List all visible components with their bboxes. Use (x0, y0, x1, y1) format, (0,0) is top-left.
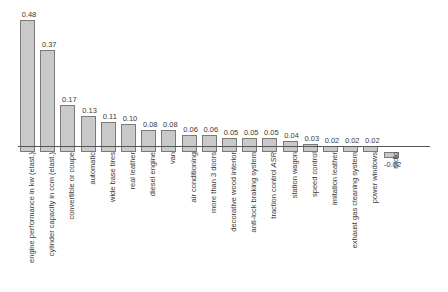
bar-slot: 0.04 (281, 6, 301, 152)
plot-area: 0.480.370.170.130.110.100.080.080.060.06… (18, 6, 430, 152)
bar-slot: 0.06 (180, 6, 200, 152)
category-label-slot: automatic (79, 150, 99, 290)
category-label-slot: station wagon (281, 150, 301, 290)
category-label: air conditioning (190, 152, 198, 202)
bar[interactable] (121, 124, 136, 152)
category-label: imitation leather (331, 152, 339, 205)
category-label-slot: radio (382, 150, 402, 290)
bar[interactable] (20, 20, 35, 152)
category-label: more than 3 doors (210, 152, 218, 213)
category-label-slot: imitation leather (321, 150, 341, 290)
bar-slot: 0.08 (139, 6, 159, 152)
x-axis-baseline (18, 146, 430, 147)
bar-slot: 0.11 (99, 6, 119, 152)
bar[interactable] (161, 130, 176, 152)
category-label-slot: cylinder capacity in ccm (elast.) (38, 150, 58, 290)
bar-slot: 0.08 (159, 6, 179, 152)
category-label: decorative wood interior (230, 152, 238, 232)
bar-slot: 0.05 (240, 6, 260, 152)
bar-slot: 0.02 (341, 6, 361, 152)
category-label: engine performance in kw (elast.) (28, 152, 36, 263)
category-labels-area: engine performance in kw (elast.)cylinde… (18, 150, 430, 290)
bar-slot: 0.05 (220, 6, 240, 152)
bar-slot: -0.02 (382, 6, 402, 152)
category-label: real leather (129, 152, 137, 190)
category-label-slot: anti-lock braking system (240, 150, 260, 290)
category-label-slot: wide base tires (99, 150, 119, 290)
category-label: convertible or coupe (68, 152, 76, 220)
category-label-slot: van (159, 150, 179, 290)
category-label-slot: decorative wood interior (220, 150, 240, 290)
bar-slot: 0.37 (38, 6, 58, 152)
bar-slot: 0.06 (200, 6, 220, 152)
category-label: anti-lock braking system (250, 152, 258, 232)
category-label-slot: traction control ASR (260, 150, 280, 290)
bar-slot: 0.02 (321, 6, 341, 152)
bar-slot: 0.02 (361, 6, 381, 152)
category-label-slot: engine performance in kw (elast.) (18, 150, 38, 290)
category-label-slot: more than 3 doors (200, 150, 220, 290)
category-label: speed control (311, 152, 319, 197)
category-label: traction control ASR (270, 152, 278, 219)
bar-slot: 0.48 (18, 6, 38, 152)
category-label: diesel engine (149, 152, 157, 196)
category-label-slot: diesel engine (139, 150, 159, 290)
category-label-slot: air conditioning (180, 150, 200, 290)
bar-slot: 0.17 (58, 6, 78, 152)
bar-slot: 0.10 (119, 6, 139, 152)
category-label: station wagon (291, 152, 299, 198)
bar-slot: 0.05 (260, 6, 280, 152)
bar-chart: 0.480.370.170.130.110.100.080.080.060.06… (0, 0, 448, 292)
category-label: cylinder capacity in ccm (elast.) (48, 152, 56, 256)
category-label: radio (392, 152, 400, 169)
category-label: automatic (89, 152, 97, 185)
category-label: power windows (371, 152, 379, 203)
category-label: wide base tires (109, 152, 117, 202)
bar[interactable] (141, 130, 156, 152)
bar-slot: 0.03 (301, 6, 321, 152)
bar[interactable] (101, 122, 116, 152)
category-label-slot: speed control (301, 150, 321, 290)
category-label: exhaust gas cleaning system (351, 152, 359, 248)
category-label-slot: real leather (119, 150, 139, 290)
bar[interactable] (40, 50, 55, 152)
category-label-slot: convertible or coupe (58, 150, 78, 290)
bar-slot: 0.13 (79, 6, 99, 152)
category-label-slot: exhaust gas cleaning system (341, 150, 361, 290)
category-label-slot: power windows (361, 150, 381, 290)
category-label: van (169, 152, 177, 164)
bar[interactable] (60, 105, 75, 152)
